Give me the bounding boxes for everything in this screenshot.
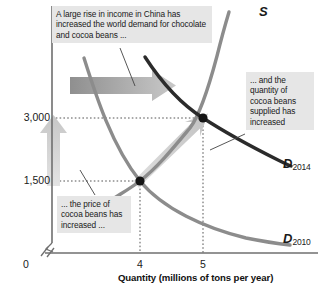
demand-2010-curve-label: D2010 [283, 231, 311, 247]
quantity-supplied-note: ... and the quantity of cocoa beans supp… [246, 72, 314, 130]
x-axis-title: Quantity (millions of tons per year) [118, 272, 273, 283]
demand-2010-letter: D [283, 231, 292, 246]
demand-2010-subscript: 2010 [292, 237, 310, 247]
supply-curve-label: S [259, 4, 268, 19]
initial-equilibrium-point [135, 176, 144, 185]
origin-label: 0 [18, 258, 34, 270]
supply-demand-chart: A large rise in income in China has incr… [0, 0, 335, 289]
demand-shift-arrow [70, 70, 176, 101]
price-increase-note: ... the price of cocoa beans has increas… [57, 196, 131, 233]
y-axis-tick-1500: 1,500 [4, 174, 50, 186]
new-equilibrium-point [198, 113, 207, 122]
demand-increase-note: A large rise in income in China has incr… [52, 6, 212, 43]
x-axis-tick-5: 5 [193, 258, 213, 270]
y-axis-tick-3000: 3,000 [4, 111, 50, 123]
x-axis-tick-4: 4 [130, 258, 150, 270]
demand-2014-curve-label: D2014 [283, 156, 311, 172]
demand-2014-subscript: 2014 [292, 162, 310, 172]
demand-2014-letter: D [283, 156, 292, 171]
axis-break-mark [41, 243, 54, 257]
